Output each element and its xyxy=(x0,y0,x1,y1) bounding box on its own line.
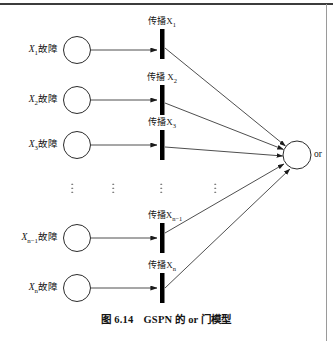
gspn-or-gate-diagram: X1故障 X2故障 X3故障 Xn−1故障 Xn故障 传播X1 传播 X2 传播… xyxy=(0,0,333,341)
figure-caption-number: 图 6.14 xyxy=(101,314,133,325)
transition-bar-row-n-minus-1 xyxy=(160,223,165,253)
place-circle-row-n-minus-1 xyxy=(64,225,91,252)
transition-bar-row-1 xyxy=(160,29,165,59)
ellipsis-places-label-column xyxy=(71,181,73,196)
transition-label-row-3: 传播X3 xyxy=(148,118,176,127)
place-circle-row-2 xyxy=(64,87,91,114)
ellipsis-places-column xyxy=(112,181,114,196)
transition-bar-row-3 xyxy=(160,130,165,160)
place-circle-row-3 xyxy=(64,132,91,159)
place-circle-row-n xyxy=(64,275,91,302)
figure-caption: 图 6.14GSPN 的 or 门模型 xyxy=(0,311,333,326)
transition-label-row-1: 传播X1 xyxy=(148,17,176,26)
arc-transition-to-gate-row-n xyxy=(165,169,290,288)
arc-transition-to-gate-row-2 xyxy=(165,103,284,150)
ellipsis-arcs-column xyxy=(214,181,216,196)
transition-label-row-2: 传播 X2 xyxy=(147,73,177,82)
ellipsis-transitions-column xyxy=(160,181,162,196)
arc-transition-to-gate-row-n-minus-1 xyxy=(165,164,284,233)
figure-caption-title: GSPN 的 or 门模型 xyxy=(144,314,232,325)
figure-page: X1故障 X2故障 X3故障 Xn−1故障 Xn故障 传播X1 传播 X2 传播… xyxy=(0,0,333,341)
place-circle-row-1 xyxy=(64,37,91,64)
place-label-row-n-minus-1: Xn−1故障 xyxy=(22,233,59,243)
transition-label-row-n-minus-1: 传播Xn−1 xyxy=(148,211,183,220)
place-label-row-2: X2故障 xyxy=(29,95,58,105)
place-label-row-n: Xn故障 xyxy=(29,283,58,293)
or-gate-label: or xyxy=(314,150,322,160)
place-label-row-1: X1故障 xyxy=(29,45,58,55)
arc-transition-to-gate-row-1 xyxy=(165,48,286,146)
place-label-row-3: X3故障 xyxy=(29,140,58,150)
or-gate-circle xyxy=(283,141,311,169)
transition-bar-row-n xyxy=(160,273,165,303)
transition-bar-row-2 xyxy=(160,85,165,115)
arc-transition-to-gate-row-3 xyxy=(165,147,283,156)
transition-label-row-n: 传播Xn xyxy=(148,261,176,270)
